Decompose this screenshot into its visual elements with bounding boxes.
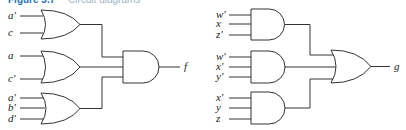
- or-gate-final: [331, 50, 371, 83]
- input-label: a': [8, 9, 17, 21]
- input-label: c': [8, 72, 16, 84]
- and-gate-3: x' y z: [215, 91, 285, 124]
- or-gate-1: a' c: [8, 9, 80, 39]
- or-gate-3: a' b' d': [8, 91, 80, 124]
- and-gate-2: w' x' y': [215, 50, 285, 83]
- input-label: y': [215, 70, 224, 82]
- circuit-f: a' c a c' a' b' d' f: [8, 9, 189, 124]
- input-label: z: [215, 112, 221, 124]
- and-gate-1: w' x z': [215, 8, 284, 40]
- logic-diagram: a' c a c' a' b' d' f: [0, 0, 406, 130]
- circuit-g: w' x z' w' x' y' x' y z: [215, 8, 400, 124]
- input-label: c: [8, 26, 13, 38]
- or-gate-2: a c': [8, 49, 80, 84]
- and-gate-final: [123, 51, 159, 83]
- output-label-g: g: [394, 60, 400, 72]
- input-label: a: [8, 49, 14, 61]
- output-label-f: f: [184, 60, 189, 72]
- input-label: z': [215, 28, 223, 40]
- input-label: d': [8, 112, 17, 124]
